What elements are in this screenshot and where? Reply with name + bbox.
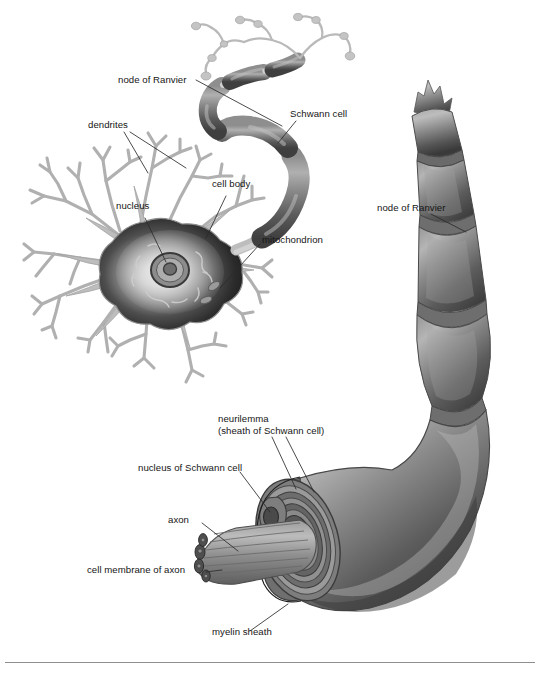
- label-nucleus-of-schwann-cell: nucleus of Schwann cell: [138, 462, 242, 474]
- label-schwann-cell: Schwann cell: [290, 108, 347, 120]
- soma: [99, 218, 242, 329]
- label-myelin-sheath: myelin sheath: [212, 626, 272, 638]
- neuron-illustration: [0, 0, 540, 676]
- label-neurilemma: neurilemma (sheath of Schwann cell): [218, 413, 324, 436]
- label-cell-body: cell body: [212, 178, 250, 190]
- label-node-of-ranvier-top: node of Ranvier: [118, 74, 186, 86]
- label-mitochondrion: mitochondrion: [262, 234, 323, 246]
- neuron-diagram-figure: node of Ranvier Schwann cell dendrites c…: [0, 0, 540, 676]
- label-axon: axon: [168, 514, 189, 526]
- label-node-of-ranvier-right: node of Ranvier: [377, 202, 445, 214]
- label-dendrites: dendrites: [88, 119, 128, 131]
- nucleus-shape: [151, 253, 189, 287]
- label-cell-membrane-of-axon: cell membrane of axon: [87, 564, 185, 576]
- footer-rule: [5, 662, 535, 663]
- label-nucleus: nucleus: [116, 200, 149, 212]
